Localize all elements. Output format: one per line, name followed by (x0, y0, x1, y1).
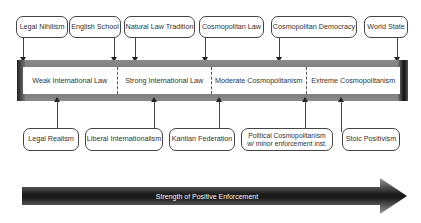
node-cosmopolitan-law: Cosmopolitan Law (199, 16, 264, 38)
connector-world-state (397, 38, 398, 58)
node-label: Kantian Federation (172, 135, 233, 143)
node-legal-nihilism: Legal Nihilism (16, 16, 68, 38)
connector-legal-nihilism (23, 38, 24, 58)
segment-label: Weak International Law (32, 76, 107, 85)
connector-cosmopolitan-democracy (279, 38, 280, 58)
spectrum-segments: Weak International Law Strong Internatio… (23, 67, 400, 94)
node-label: Political Cosmopolitanism w/ minor enfor… (247, 132, 327, 147)
node-kantian-federation: Kantian Federation (169, 128, 235, 151)
node-label: World State (367, 23, 404, 31)
node-english-school: English School (69, 16, 121, 38)
connector-stoic-positivism (341, 101, 342, 132)
segment-extreme-cosmopolitanism: Extreme Cosmopolitanism (306, 67, 401, 94)
node-label: Natural Law Tradition (126, 23, 194, 31)
segment-label: Extreme Cosmopolitanism (311, 76, 395, 85)
node-legal-realism: Legal Realism (23, 128, 79, 151)
node-political-cosmopolitanism: Political Cosmopolitanism w/ minor enfor… (241, 128, 333, 151)
segment-label: Moderate Cosmopolitanism (215, 76, 303, 85)
node-natural-law-tradition: Natural Law Tradition (124, 16, 195, 38)
segment-strong-international-law: Strong International Law (117, 67, 212, 94)
node-cosmopolitan-democracy: Cosmopolitan Democracy (271, 16, 357, 38)
node-label: Legal Nihilism (20, 23, 65, 31)
node-stoic-positivism: Stoic Positivism (342, 128, 400, 151)
node-label: Cosmopolitan Democracy (273, 23, 355, 31)
node-label: Cosmopolitan Law (202, 23, 261, 31)
segment-moderate-cosmopolitanism: Moderate Cosmopolitanism (211, 67, 306, 94)
segment-weak-international-law: Weak International Law (23, 67, 117, 94)
node-label: Liberal Internationalism (87, 135, 161, 143)
enforcement-axis-label: Strength of Positive Enforcement (22, 188, 392, 204)
node-label: Legal Realism (28, 135, 74, 143)
axis-label-text: Strength of Positive Enforcement (156, 193, 258, 200)
node-liberal-internationalism: Liberal Internationalism (85, 128, 163, 151)
connector-english-school (114, 38, 115, 58)
node-label: English School (71, 23, 119, 31)
node-label: Stoic Positivism (346, 135, 396, 143)
node-world-state: World State (364, 16, 408, 38)
connector-natural-law-tradition (135, 38, 136, 58)
segment-label: Strong International Law (125, 76, 203, 85)
connector-cosmopolitan-law (205, 38, 206, 58)
